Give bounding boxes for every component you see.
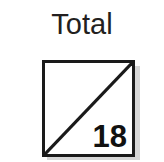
total-score-value: 18 <box>93 120 127 153</box>
total-scorecard: Total 18 <box>0 0 164 162</box>
page-title: Total <box>0 8 164 40</box>
box-inner: 18 <box>45 63 132 154</box>
total-score-box[interactable]: 18 <box>42 60 135 157</box>
